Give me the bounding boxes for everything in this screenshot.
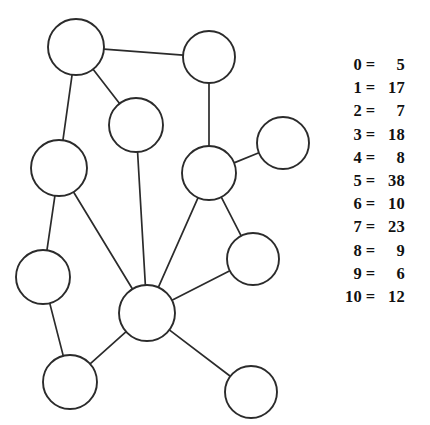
legend-row: 4=8 xyxy=(336,148,426,171)
legend-separator: = xyxy=(362,264,379,284)
legend-row: 7=23 xyxy=(336,217,426,240)
graph-edge xyxy=(158,198,198,288)
legend-separator: = xyxy=(362,78,379,98)
graph-node[interactable] xyxy=(225,366,277,418)
graph-edge xyxy=(172,271,230,300)
graph-edge xyxy=(74,192,133,289)
graph-edge xyxy=(47,196,55,251)
legend-key: 7 xyxy=(336,217,362,237)
graph-node[interactable] xyxy=(119,285,175,341)
legend-value: 8 xyxy=(379,148,405,168)
legend-separator: = xyxy=(362,101,379,121)
legend-separator: = xyxy=(362,241,379,261)
legend-row: 5=38 xyxy=(336,171,426,194)
legend-separator: = xyxy=(362,217,379,237)
graph-edge xyxy=(234,153,259,163)
graph-node[interactable] xyxy=(227,233,279,285)
legend-key: 1 xyxy=(336,78,362,98)
legend-key: 0 xyxy=(336,55,362,75)
legend-separator: = xyxy=(362,287,379,307)
graph-node[interactable] xyxy=(31,140,87,196)
legend-separator: = xyxy=(362,125,379,145)
legend-value: 5 xyxy=(379,55,405,75)
legend-key: 3 xyxy=(336,125,362,145)
legend-value: 7 xyxy=(379,101,405,121)
graph-diagram xyxy=(0,0,330,425)
graph-node[interactable] xyxy=(182,146,236,200)
legend-value: 12 xyxy=(379,287,405,307)
graph-edge xyxy=(93,69,119,103)
graph-edge xyxy=(50,303,64,356)
graph-edge xyxy=(90,332,126,364)
legend-value: 9 xyxy=(379,241,405,261)
legend-row: 6=10 xyxy=(336,194,426,217)
graph-node[interactable] xyxy=(48,19,104,75)
graph-node[interactable] xyxy=(109,98,163,152)
graph-figure: 0=51=172=73=184=85=386=107=238=99=610=12 xyxy=(0,0,430,425)
legend-key: 4 xyxy=(336,148,362,168)
graph-edge xyxy=(169,330,230,376)
legend-row: 3=18 xyxy=(336,125,426,148)
legend-separator: = xyxy=(362,171,379,191)
legend-value: 6 xyxy=(379,264,405,284)
graph-edge xyxy=(221,197,241,236)
legend-row: 10=12 xyxy=(336,287,426,310)
graph-node[interactable] xyxy=(257,117,309,169)
legend-row: 9=6 xyxy=(336,264,426,287)
legend-row: 0=5 xyxy=(336,55,426,78)
legend-key: 2 xyxy=(336,101,362,121)
graph-node[interactable] xyxy=(43,355,97,409)
legend-row: 1=17 xyxy=(336,78,426,101)
legend-value: 17 xyxy=(379,78,405,98)
graph-edge xyxy=(104,49,183,55)
legend-value: 10 xyxy=(379,194,405,214)
legend-row: 2=7 xyxy=(336,101,426,124)
graph-edge xyxy=(63,75,72,141)
legend-separator: = xyxy=(362,55,379,75)
legend-row: 8=9 xyxy=(336,241,426,264)
node-layer xyxy=(16,19,309,418)
legend-key: 6 xyxy=(336,194,362,214)
legend-separator: = xyxy=(362,148,379,168)
legend-key: 8 xyxy=(336,241,362,261)
graph-node[interactable] xyxy=(183,31,235,83)
legend-value: 38 xyxy=(379,171,405,191)
graph-node[interactable] xyxy=(16,250,70,304)
graph-edge xyxy=(138,152,146,285)
legend-value: 18 xyxy=(379,125,405,145)
legend-key: 5 xyxy=(336,171,362,191)
legend-separator: = xyxy=(362,194,379,214)
legend-key: 10 xyxy=(336,287,362,307)
legend-key: 9 xyxy=(336,264,362,284)
legend-value: 23 xyxy=(379,217,405,237)
value-legend: 0=51=172=73=184=85=386=107=238=99=610=12 xyxy=(336,55,426,310)
